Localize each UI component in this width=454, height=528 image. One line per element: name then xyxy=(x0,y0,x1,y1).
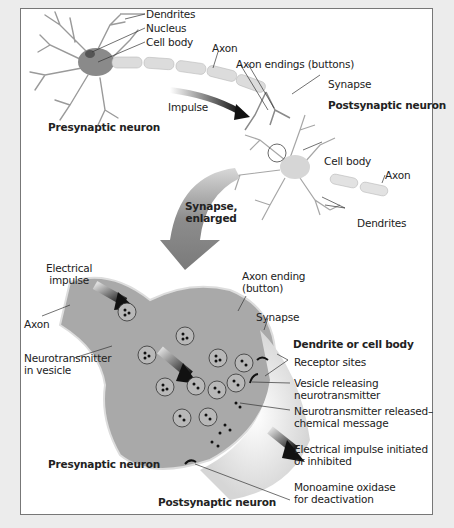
label-axon-ending: Axon ending (button) xyxy=(242,270,305,294)
label-cell-body: Cell body xyxy=(146,36,193,48)
label-synapse-bottom: Synapse xyxy=(256,311,299,323)
nt-released-line2: chemical message xyxy=(294,417,433,429)
label-axon-bottom: Axon xyxy=(24,318,49,330)
label-monoamine-oxidase: Monoamine oxidase for deactivation xyxy=(294,481,395,505)
vesicle-releasing-line1: Vesicle releasing xyxy=(294,377,380,389)
label-postsynaptic-neuron-bottom: Postsynaptic neuron xyxy=(158,496,276,508)
label-synapse-enlarged: Synapse, enlarged xyxy=(185,200,237,224)
nt-in-vesicle-line2: in vesicle xyxy=(24,364,111,376)
label-impulse: Impulse xyxy=(168,101,208,113)
label-presynaptic-neuron-top: Presynaptic neuron xyxy=(48,121,160,133)
electrical-initiated-line1: Electrical impulse initiated xyxy=(294,443,428,455)
label-nucleus: Nucleus xyxy=(146,22,186,34)
label-vesicle-releasing: Vesicle releasing neurotransmitter xyxy=(294,377,380,401)
axon-ending-line2: (button) xyxy=(242,282,305,294)
monoamine-line2: for deactivation xyxy=(294,493,395,505)
label-neurotransmitter-released: Neurotransmitter released– chemical mess… xyxy=(294,405,433,429)
postsynaptic-axon xyxy=(329,173,388,197)
axon-ending-line1: Axon ending xyxy=(242,270,305,282)
label-axon: Axon xyxy=(212,42,237,54)
label-dendrites-post: Dendrites xyxy=(357,217,406,229)
postsynaptic-dendrites xyxy=(220,115,340,220)
label-axon-endings: Axon endings (buttons) xyxy=(236,58,354,70)
label-neurotransmitter-in-vesicle: Neurotransmitter in vesicle xyxy=(24,352,111,376)
label-electrical-impulse: Electrical impulse xyxy=(46,262,92,286)
synapse-enlarged-line2: enlarged xyxy=(185,212,237,224)
electrical-initiated-line2: or inhibited xyxy=(294,455,428,467)
label-axon-post: Axon xyxy=(385,169,410,181)
monoamine-line1: Monoamine oxidase xyxy=(294,481,395,493)
synapse-enlarged-line1: Synapse, xyxy=(185,200,237,212)
label-dendrites: Dendrites xyxy=(146,8,195,20)
label-cell-body-post: Cell body xyxy=(324,155,371,167)
electrical-impulse-line2: impulse xyxy=(46,274,92,286)
label-receptor-sites: Receptor sites xyxy=(294,356,366,368)
vesicle-releasing-line2: neurotransmitter xyxy=(294,389,380,401)
electrical-impulse-line1: Electrical xyxy=(46,262,92,274)
nt-released-line1: Neurotransmitter released– xyxy=(294,405,433,417)
label-synapse-top: Synapse xyxy=(328,78,371,90)
axon-endings xyxy=(245,92,290,130)
nt-in-vesicle-line1: Neurotransmitter xyxy=(24,352,111,364)
label-presynaptic-neuron-bottom: Presynaptic neuron xyxy=(48,458,160,470)
presynaptic-cell-body xyxy=(78,48,114,76)
label-postsynaptic-neuron-top: Postsynaptic neuron xyxy=(328,99,446,111)
label-electrical-initiated: Electrical impulse initiated or inhibite… xyxy=(294,443,428,467)
label-dendrite-or-cell-body: Dendrite or cell body xyxy=(293,338,414,350)
